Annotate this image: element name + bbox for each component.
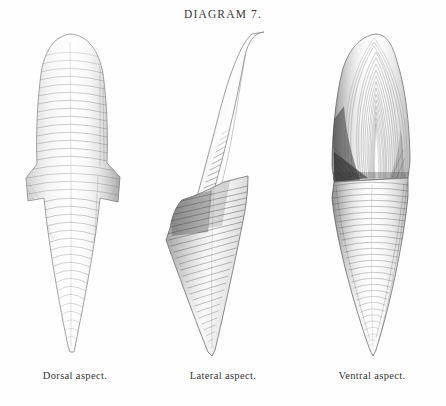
dorsal-aspect-illustration: [4, 26, 146, 361]
caption-ventral-aspect: Ventral aspect.: [298, 370, 446, 381]
dorsal-body: [26, 34, 120, 352]
diagram-plate: DIAGRAM 7.: [0, 0, 446, 406]
figure-row: [0, 26, 446, 361]
ventral-lower-cone: [332, 178, 408, 356]
page-title: DIAGRAM 7.: [0, 8, 446, 20]
figure-lateral-aspect: [152, 26, 300, 361]
caption-row: Dorsal aspect. Lateral aspect. Ventral a…: [0, 370, 446, 392]
caption-lateral-aspect: Lateral aspect.: [148, 370, 298, 381]
figure-ventral-aspect: [304, 26, 446, 361]
caption-dorsal-aspect: Dorsal aspect.: [0, 370, 150, 381]
ventral-aspect-illustration: [304, 26, 446, 361]
lateral-aspect-illustration: [152, 26, 300, 361]
figure-dorsal-aspect: [4, 26, 146, 361]
